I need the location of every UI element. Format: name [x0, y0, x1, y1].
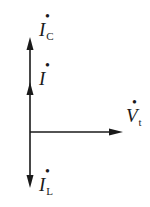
ic-dot: •	[45, 10, 50, 24]
vt-dot: •	[132, 96, 137, 110]
vt-subscript: t	[139, 116, 142, 128]
vt-label: • Vt	[126, 106, 142, 125]
i-dot: •	[45, 59, 50, 73]
il-subscript: L	[46, 185, 53, 197]
i-label: • I	[39, 69, 45, 88]
phasor-diagram	[0, 0, 150, 207]
il-dot: •	[45, 165, 50, 179]
vt-arrowhead-icon	[109, 129, 123, 136]
i-arrowhead-icon	[27, 82, 34, 95]
ic-arrowhead-icon	[27, 37, 34, 50]
il-label: • IL	[39, 175, 53, 194]
il-arrowhead-icon	[27, 175, 34, 188]
ic-subscript: C	[46, 30, 53, 42]
ic-label: • IC	[39, 20, 54, 39]
